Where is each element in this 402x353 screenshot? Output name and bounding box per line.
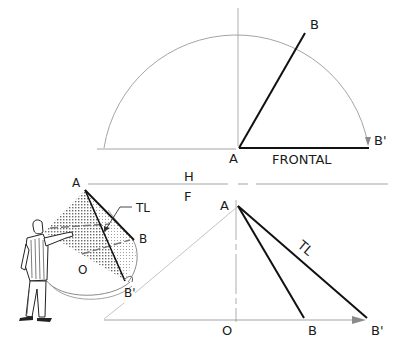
folding-line-hf: H F — [88, 169, 388, 204]
label-tl-pictorial: TL — [135, 201, 150, 215]
label-f: F — [184, 189, 191, 204]
top-view: A B B' FRONTAL — [97, 8, 387, 167]
arrowhead-top — [365, 137, 371, 146]
line-ab-front — [238, 206, 304, 318]
observer-figure-icon — [19, 220, 73, 322]
label-b-prime-front: B' — [371, 323, 384, 338]
cone-outline-front — [135, 207, 237, 293]
revolution-arc — [104, 35, 368, 148]
front-view: A O B B' TL — [104, 198, 384, 338]
label-a-front: A — [220, 198, 229, 213]
cone-base-arc — [46, 280, 130, 295]
line-ab-prime-true-length — [238, 206, 367, 318]
line-ab-top — [239, 33, 305, 148]
label-o-pictorial: O — [78, 263, 87, 277]
label-a-top: A — [229, 151, 238, 166]
label-b-pictorial: B — [139, 232, 147, 246]
label-o-front: O — [222, 323, 232, 338]
arrowhead-front — [352, 316, 366, 324]
true-length-revolution-diagram: A B B' FRONTAL H F A O B B' TL — [0, 0, 402, 353]
label-b-top: B — [310, 17, 319, 32]
label-h: H — [184, 169, 194, 184]
label-b-front: B — [308, 323, 317, 338]
label-b-prime-pictorial: B' — [124, 286, 136, 300]
label-tl-front: TL — [294, 237, 317, 259]
label-a-pictorial: A — [72, 176, 81, 190]
label-b-prime-top: B' — [374, 133, 387, 148]
label-frontal: FRONTAL — [272, 152, 332, 167]
